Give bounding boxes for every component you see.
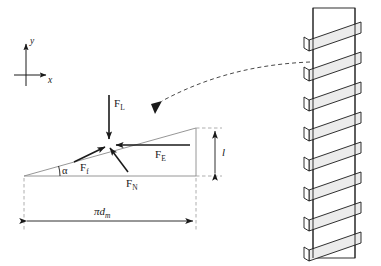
incline-hypotenuse	[24, 128, 196, 176]
helical-screw-thread	[304, 8, 361, 261]
diagram-canvas: x y α FL Ff	[0, 0, 381, 266]
helix-angle-marker: α	[59, 165, 68, 176]
y-axis-label: y	[29, 36, 35, 46]
force-normal-label: FN	[126, 177, 138, 192]
leader-curve-path	[162, 62, 310, 101]
force-effort-label: FE	[155, 148, 166, 163]
coordinate-axes: x y	[14, 36, 53, 86]
x-axis-label: x	[47, 75, 53, 85]
circumference-dimension-label: πdm	[94, 205, 111, 220]
inclined-plane-triangle	[24, 128, 196, 176]
force-normal-arrow	[110, 148, 128, 172]
force-friction-label: Ff	[80, 161, 89, 176]
dashed-leader-curve	[151, 62, 310, 114]
force-normal: FN	[110, 148, 138, 192]
leader-arrow-icon	[151, 101, 162, 114]
screw-force-diagram: x y α FL Ff	[0, 0, 381, 266]
force-friction: Ff	[74, 147, 105, 176]
circumference-dimension: πdm	[24, 178, 196, 232]
angle-label: α	[62, 165, 68, 176]
force-load-label: FL	[114, 97, 125, 112]
force-load: FL	[109, 95, 125, 139]
angle-arc	[59, 166, 60, 176]
lead-dimension-label: l	[222, 146, 225, 158]
lead-dimension: l	[196, 128, 225, 176]
